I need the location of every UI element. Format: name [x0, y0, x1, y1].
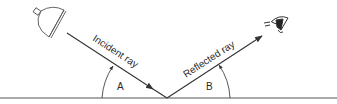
angle-b-label: B: [206, 81, 213, 92]
angle-a-label: A: [117, 81, 124, 92]
angle-a-arc: [102, 66, 113, 98]
angle-b-arc: [219, 65, 230, 98]
reflected-ray: [167, 36, 262, 98]
eye-icon: [264, 17, 288, 33]
reflection-diagram: Incident ray Reflected ray A B: [0, 0, 337, 104]
lamp-icon: [33, 7, 66, 38]
reflected-ray-label: Reflected ray: [181, 38, 236, 79]
